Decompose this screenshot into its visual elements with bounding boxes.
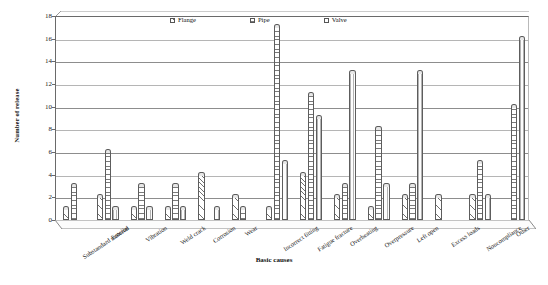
bar-valve	[282, 163, 288, 220]
legend-label: Pipe	[258, 17, 270, 24]
bar-flange	[469, 197, 475, 220]
bar-pipe	[308, 95, 314, 220]
bar-valve	[519, 39, 525, 220]
bar-flange	[232, 197, 238, 220]
bar-flange	[368, 209, 374, 220]
legend-label: Flange	[178, 17, 196, 24]
bar-pipe	[477, 163, 483, 220]
bar-chart: Number of release 024681012141618 Substa…	[0, 0, 548, 285]
legend-swatch-icon	[324, 18, 329, 23]
bar-group	[334, 16, 356, 220]
y-axis-tick-label: 16	[12, 35, 52, 43]
bar-groups	[55, 16, 529, 220]
y-axis-tick-label: 8	[12, 125, 52, 133]
bar-valve	[214, 209, 220, 220]
bar-group	[131, 16, 153, 220]
bar-flange	[198, 175, 204, 220]
bar-valve	[316, 118, 322, 220]
bar-pipe	[342, 186, 348, 220]
bar-flange	[402, 197, 408, 220]
y-axis-tick-label: 12	[12, 80, 52, 88]
x-axis-tick-label: Noncompliance	[485, 224, 522, 252]
bar-valve	[180, 209, 186, 220]
x-axis-tick-label: Incorrect fitting	[282, 224, 319, 252]
bar-pipe	[409, 186, 415, 220]
bar-valve	[349, 73, 355, 220]
bar-group	[165, 16, 187, 220]
bar-valve	[485, 197, 491, 220]
y-axis-tick-label: 10	[12, 103, 52, 111]
bar-pipe	[105, 152, 111, 220]
x-axis-tick-label: Erosion	[109, 224, 129, 241]
bar-group	[266, 16, 288, 220]
legend-item-valve[interactable]: Valve	[324, 17, 347, 24]
x-axis-tick-label: Vibration	[144, 224, 168, 243]
chart-legend: FlangePipeValve	[170, 17, 347, 24]
bar-group	[368, 16, 390, 220]
bar-pipe	[274, 27, 280, 220]
y-axis-tick-mark	[52, 220, 55, 221]
bar-group	[300, 16, 322, 220]
bar-flange	[266, 209, 272, 220]
bar-group	[63, 16, 85, 220]
x-axis-tick-label: Left open	[415, 224, 439, 244]
bar-pipe	[138, 186, 144, 220]
bar-pipe	[511, 107, 517, 220]
y-axis-tick-label: 14	[12, 57, 52, 65]
bar-valve	[383, 186, 389, 220]
bar-flange	[131, 209, 137, 220]
bar-valve	[417, 73, 423, 220]
legend-item-pipe[interactable]: Pipe	[250, 17, 270, 24]
bar-flange	[300, 175, 306, 220]
y-axis-tick-label: 2	[12, 193, 52, 201]
bar-flange	[63, 209, 69, 220]
y-axis-tick-label: 18	[12, 12, 52, 20]
x-axis-tick-label: Corrosion	[212, 224, 237, 244]
bar-group	[97, 16, 119, 220]
bar-valve	[146, 209, 152, 220]
legend-label: Valve	[332, 17, 347, 24]
bar-pipe	[71, 186, 77, 220]
y-axis-title: Number of release	[13, 56, 20, 176]
x-axis-tick-label: Overpressure	[382, 224, 414, 249]
bar-group	[503, 16, 525, 220]
bar-pipe	[172, 186, 178, 220]
bar-pipe	[240, 209, 246, 220]
gridline	[56, 221, 528, 222]
bar-valve	[112, 209, 118, 220]
bar-group	[402, 16, 424, 220]
bar-flange	[165, 209, 171, 220]
bar-group	[469, 16, 491, 220]
bar-flange	[97, 197, 103, 220]
bar-group	[232, 16, 254, 220]
legend-swatch-icon	[250, 18, 255, 23]
bar-flange	[334, 197, 340, 220]
legend-item-flange[interactable]: Flange	[170, 17, 196, 24]
x-axis-tick-labels: Substandard materialErosionVibrationWeld…	[55, 224, 536, 284]
y-axis-tick-label: 6	[12, 148, 52, 156]
bar-flange	[435, 197, 441, 220]
x-axis-tick-label: Wear	[243, 224, 258, 237]
x-axis-tick-label: Excess loads	[450, 224, 481, 248]
x-axis-tick-label: Weld crack	[178, 224, 206, 246]
y-axis-tick-label: 0	[12, 216, 52, 224]
bar-pipe	[375, 129, 381, 220]
x-axis-tick-label: Fatigue fracture	[316, 224, 354, 253]
y-axis-tick-label: 4	[12, 171, 52, 179]
bar-group	[198, 16, 220, 220]
legend-swatch-icon	[170, 18, 175, 23]
bar-group	[435, 16, 457, 220]
x-axis-title: Basic causes	[0, 256, 548, 264]
